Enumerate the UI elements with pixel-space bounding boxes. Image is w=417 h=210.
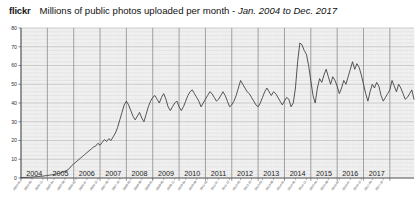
x-axis-year-label: 2008 [132,169,148,178]
x-axis-month-label: 2004-01 [12,180,22,192]
x-axis-month-label: 2007-05 [100,180,110,192]
x-axis-month-label: 2005-04 [45,180,55,192]
y-axis-label: 70 [11,44,17,50]
page-title-range: Jan. 2004 to Dec. 2017 [238,5,337,16]
x-axis-month-label: 2017-05 [363,180,373,192]
y-axis-label: 80 [11,25,17,31]
x-axis-year-label: 2011 [211,169,226,178]
x-axis-month-label: 2012-05 [232,180,242,192]
x-axis-month-label: 2008-08 [133,180,143,192]
x-axis-month-label: 2004-06 [23,180,33,192]
x-axis-month-label: 2008-03 [122,180,132,192]
x-axis-month-label: 2014-06 [286,180,296,192]
x-axis-month-label: 2011-12 [221,180,231,192]
y-axis-label: 10 [11,156,17,162]
x-axis-month-label: 2010-09 [188,180,198,192]
x-axis-month-label: 2009-01 [144,180,154,192]
x-axis-year-label: 2009 [158,169,174,178]
y-axis-label: 40 [11,100,17,106]
x-axis-month-label: 2017-10 [374,180,384,192]
x-axis-month-label: 2016-07 [341,180,351,192]
x-axis-month-label: 2010-04 [177,180,187,192]
x-axis-month-label: 2004-11 [34,180,44,192]
chart-container: 0102030405060708020042005200620072008200… [0,18,417,210]
chart-header: flickr Millions of public photos uploade… [0,0,417,20]
x-axis-month-label: 2006-12 [89,180,99,192]
x-axis-month-label: 2006-07 [78,180,88,192]
x-axis-year-label: 2016 [342,169,358,178]
y-axis-label: 20 [11,137,17,143]
x-axis-month-label: 2009-06 [155,180,165,192]
x-axis-month-label: 2013-08 [265,180,275,192]
x-axis-month-label: 2005-09 [56,180,66,192]
x-axis-year-label: 2012 [237,169,253,178]
x-axis-month-label: 2014-01 [275,180,285,192]
x-axis-year-label: 2006 [79,169,95,178]
line-chart: 0102030405060708020042005200620072008200… [0,18,417,210]
x-axis-year-label: 2007 [105,169,121,178]
x-axis-month-label: 2011-02 [199,180,209,192]
x-axis-year-label: 2010 [184,169,200,178]
y-axis-label: 60 [11,62,17,68]
x-axis-month-label: 2012-10 [243,180,253,192]
x-axis-month-label: 2013-03 [254,180,264,192]
y-axis-label: 30 [11,119,17,125]
x-axis-month-label: 2009-11 [166,180,176,192]
x-axis-month-label: 2006-02 [67,180,77,192]
flickr-logo: flickr [9,5,31,16]
x-axis-month-label: 2011-07 [210,180,220,192]
x-axis-month-label: 2015-09 [319,180,329,192]
x-axis-month-label: 2016-02 [330,180,340,192]
x-axis-year-label: 2017 [369,169,385,178]
x-axis-year-label: 2014 [290,169,306,178]
y-axis-label: 50 [11,81,17,87]
x-axis-month-label: 2014-11 [298,180,308,192]
x-axis-month-label: 2016-12 [352,180,362,192]
x-axis-month-label: 2007-10 [111,180,121,192]
y-axis-label: 0 [14,175,17,181]
page-title: Millions of public photos uploaded per m… [40,5,338,16]
x-axis-year-label: 2013 [263,169,279,178]
x-axis-month-label: 2015-04 [308,180,318,192]
page-title-main: Millions of public photos uploaded per m… [40,5,238,16]
x-axis-year-label: 2015 [316,169,332,178]
